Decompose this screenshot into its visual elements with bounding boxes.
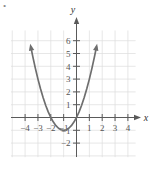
bullet-marker: • (3, 1, 6, 11)
y-tick-label: 1 (66, 100, 71, 110)
x-tick-label: 4 (126, 123, 131, 133)
y-tick-label: 6 (66, 36, 71, 46)
y-tick-label: 2 (66, 87, 71, 97)
x-tick-label: 1 (87, 123, 92, 133)
x-axis-label: x (143, 112, 149, 123)
x-tick-label: −3 (33, 123, 43, 133)
y-axis-label: y (70, 4, 76, 15)
y-tick-label: 3 (66, 74, 71, 84)
x-tick-label: −4 (20, 123, 30, 133)
y-tick-label: −2 (61, 138, 71, 148)
y-tick-label: 5 (66, 49, 71, 59)
x-tick-label: 3 (113, 123, 118, 133)
coordinate-plane-figure: −4−3−2−11234 −2123456−1 x y • (0, 0, 154, 169)
x-tick-label: 2 (100, 123, 105, 133)
y-tick-label: 4 (66, 62, 71, 72)
figure-container: −4−3−2−11234 −2123456−1 x y • (0, 0, 154, 169)
